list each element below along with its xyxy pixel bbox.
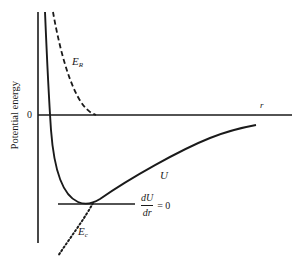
x-axis-label: r bbox=[260, 101, 264, 110]
diagram-canvas bbox=[0, 0, 302, 265]
derivative-fraction: dU dr bbox=[141, 193, 153, 218]
attractive-energy-symbol: E bbox=[78, 225, 85, 237]
attractive-energy-label: Ec bbox=[78, 226, 88, 239]
total-potential-label: U bbox=[160, 170, 168, 181]
repulsive-energy-label: ER bbox=[72, 56, 83, 69]
zero-label: 0 bbox=[27, 110, 32, 120]
derivative-numerator: dU bbox=[141, 193, 153, 203]
total-potential-curve bbox=[45, 12, 256, 204]
potential-energy-diagram: Potential energy 0 r ER U Ec dU dr = 0 bbox=[0, 0, 302, 265]
attractive-energy-subscript: c bbox=[85, 231, 88, 239]
equilibrium-condition: dU dr = 0 bbox=[141, 193, 170, 218]
repulsive-energy-subscript: R bbox=[79, 61, 83, 69]
fraction-bar bbox=[141, 205, 153, 206]
equals-zero: = 0 bbox=[157, 201, 170, 211]
y-axis-label: Potential energy bbox=[10, 77, 21, 153]
repulsive-energy-symbol: E bbox=[72, 55, 79, 67]
derivative-denominator: dr bbox=[143, 208, 152, 218]
